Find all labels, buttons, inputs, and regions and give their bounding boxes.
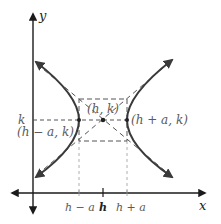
left-vertex-label: (h − a, k) xyxy=(17,125,74,139)
y-axis-label: y xyxy=(38,8,47,23)
left-vertex-point xyxy=(77,118,81,122)
tick-label-h-minus-a: h − a xyxy=(65,201,95,214)
right-vertex-label: (h + a, k) xyxy=(131,113,188,127)
x-axis-label: x xyxy=(199,198,207,213)
vertex-guides xyxy=(79,141,127,193)
tick-label-h-plus-a: h + a xyxy=(116,201,146,214)
center-label: (h, k) xyxy=(87,102,119,116)
center-point xyxy=(101,118,106,123)
right-vertex-point xyxy=(125,118,129,122)
tick-label-h: h xyxy=(99,201,107,214)
hyperbola-diagram: y x k (h − a, k) (h, k) (h + a, k) h − a… xyxy=(0,0,221,224)
